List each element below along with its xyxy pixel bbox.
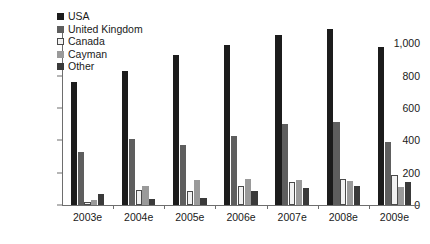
x-axis-tick-label: 2005e: [175, 211, 204, 223]
legend-swatch-usa: [57, 13, 64, 20]
x-axis-separator-tick: [369, 205, 370, 209]
bar: [98, 194, 104, 205]
x-axis-tick-label: 2003e: [73, 211, 102, 223]
bar: [289, 182, 295, 205]
bar: [405, 182, 411, 205]
bar: [180, 145, 186, 205]
bar: [347, 181, 353, 205]
bar: [187, 191, 193, 205]
bar-group: [164, 27, 215, 205]
bar: [340, 179, 346, 205]
bar: [122, 71, 128, 205]
legend-swatch-canada: [57, 38, 64, 45]
bar: [275, 35, 281, 205]
bar: [282, 124, 288, 205]
legend-item-label: United Kingdom: [68, 24, 143, 36]
bar: [129, 139, 135, 205]
x-axis-separator-tick: [113, 205, 114, 209]
bar: [378, 47, 384, 205]
legend-item: USA: [57, 11, 143, 23]
legend-item-label: USA: [68, 11, 90, 23]
bar: [391, 175, 397, 205]
bar: [398, 187, 404, 205]
x-axis-line: [62, 205, 420, 206]
bar: [251, 191, 257, 205]
bar: [231, 136, 237, 205]
bar: [136, 190, 142, 205]
bar: [354, 186, 360, 205]
bar-group: [267, 27, 318, 205]
legend-swatch-united-kingdom: [57, 26, 64, 33]
bar: [71, 82, 77, 205]
x-axis-tick-label: 2006e: [226, 211, 255, 223]
bar: [385, 142, 391, 205]
legend-item-label: Canada: [68, 36, 105, 48]
bar: [238, 186, 244, 205]
x-axis-separator-tick: [164, 205, 165, 209]
x-axis-tick-label: 2007e: [278, 211, 307, 223]
legend-item: Canada: [57, 36, 143, 48]
legend-item: Other: [57, 61, 143, 73]
bar-chart: USAUnited KingdomCanadaCaymanOther 02004…: [0, 0, 430, 244]
bar: [303, 188, 309, 205]
bar: [142, 186, 148, 205]
x-axis-tick-label: 2008e: [329, 211, 358, 223]
bar: [78, 152, 84, 205]
chart-legend: USAUnited KingdomCanadaCaymanOther: [57, 11, 143, 73]
bar: [333, 122, 339, 205]
bar-group: [369, 27, 420, 205]
legend-item-label: Other: [68, 61, 94, 73]
bar-group: [215, 27, 266, 205]
bar: [200, 198, 206, 205]
bar: [245, 179, 251, 205]
legend-swatch-cayman: [57, 51, 64, 58]
x-axis-separator-tick: [318, 205, 319, 209]
bar: [173, 55, 179, 205]
bar-group: [318, 27, 369, 205]
bar: [194, 180, 200, 205]
x-axis-separator-tick: [267, 205, 268, 209]
bar: [327, 29, 333, 205]
x-axis-tick-label: 2004e: [124, 211, 153, 223]
legend-swatch-other: [57, 63, 64, 70]
legend-item: United Kingdom: [57, 24, 143, 36]
legend-item: Cayman: [57, 49, 143, 61]
bar: [224, 45, 230, 205]
x-axis-tick-label: 2009e: [380, 211, 409, 223]
bar: [296, 180, 302, 205]
x-axis-separator-tick: [215, 205, 216, 209]
legend-item-label: Cayman: [68, 49, 107, 61]
